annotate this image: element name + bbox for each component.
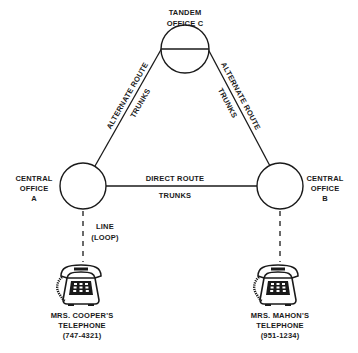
line-loop-label-line1: LINE (96, 222, 114, 231)
right-alternate-trunk-line (199, 32, 270, 166)
cooper-label-line3: (747-4321) (63, 331, 102, 340)
office-b-label-line2: OFFICE (311, 184, 340, 193)
tandem-label-line1: TANDEM (169, 8, 202, 17)
left-alternate-trunk-line (95, 32, 171, 166)
office-a-label-line3: A (31, 194, 37, 203)
tandem-label-line2: OFFICE C (167, 19, 204, 28)
mahon-label-line2: TELEPHONE (256, 321, 304, 330)
direct-label-line1: DIRECT ROUTE (146, 174, 205, 183)
mahon-label-line1: MRS. MAHON'S (251, 311, 309, 320)
telephone-network-diagram: TANDEM OFFICE C CENTRAL OFFICE A CENTRAL… (0, 0, 358, 353)
direct-label-line2: TRUNKS (159, 191, 191, 200)
tandem-office-c-node (161, 25, 209, 73)
line-loop-label-line2: (LOOP) (91, 233, 119, 242)
office-a-label-line1: CENTRAL (15, 174, 52, 183)
mahon-label-line3: (951-1234) (261, 331, 300, 340)
cooper-label-line1: MRS. COOPER'S (51, 311, 114, 320)
telephone-icon (254, 265, 298, 306)
office-b-label-line3: B (322, 194, 328, 203)
telephone-icon (57, 265, 101, 306)
central-office-b-node (257, 163, 303, 209)
central-office-a-node (60, 163, 106, 209)
cooper-label-line2: TELEPHONE (58, 321, 106, 330)
office-a-label-line2: OFFICE (20, 184, 49, 193)
office-b-label-line1: CENTRAL (306, 174, 343, 183)
